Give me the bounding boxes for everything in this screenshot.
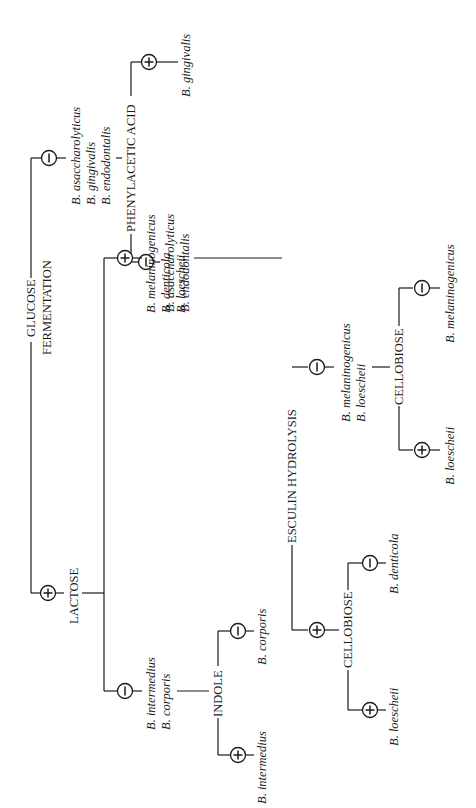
- esculin-positive-node: [310, 623, 325, 638]
- species-label: B. denticola: [159, 253, 173, 313]
- glucose-negative-node: [42, 151, 57, 166]
- species-label: B. loescheii: [387, 687, 401, 746]
- esculin-negative-node: [310, 360, 325, 375]
- lactose-positive-node: [118, 251, 133, 266]
- test-fermentation-label: FERMENTATION: [40, 260, 54, 355]
- lactose-negative-node: [118, 684, 133, 699]
- species-label: B. melaninogenicus: [144, 214, 158, 313]
- cellobiose-positive-node: [415, 443, 430, 458]
- phenylacetic-positive-node: [142, 55, 157, 70]
- indole-negative-node: [231, 624, 246, 639]
- species-label: B. intermedius: [255, 731, 269, 804]
- species-label: B. melaninogenicus: [339, 323, 353, 422]
- species-label: B. denticola: [387, 534, 401, 594]
- species-label: B. loescheii: [354, 363, 368, 422]
- indole-positive-node: [231, 748, 246, 763]
- species-label: B. corporis: [255, 609, 269, 665]
- dichotomous-key-diagram: GLUCOSE FERMENTATION B. asaccharolyticus…: [0, 0, 476, 808]
- test-indole-label: INDOLE: [211, 670, 225, 717]
- species-label: B. loescheii: [174, 254, 188, 313]
- species-label: B. loescheii: [443, 426, 457, 485]
- cellobiose-positive-node: [363, 703, 378, 718]
- species-label: B. endodontalis: [99, 126, 113, 205]
- test-lactose-label: LACTOSE: [67, 568, 81, 624]
- species-label: B. gingivalis: [84, 142, 98, 205]
- cellobiose-negative-node: [363, 556, 378, 571]
- species-label: B. corporis: [159, 674, 173, 730]
- test-glucose-label: GLUCOSE: [24, 279, 38, 337]
- species-label: B. melaninogenicus: [443, 244, 457, 343]
- species-label: B. gingivalis: [179, 34, 193, 97]
- species-label: B. asaccharolyticus: [69, 107, 83, 205]
- test-phenylacetic-acid-label: PHENYLACETIC ACID: [124, 105, 138, 232]
- test-cellobiose-label: CELLOBIOSE: [392, 328, 406, 405]
- test-cellobiose-label: CELLOBIOSE: [341, 591, 355, 668]
- cellobiose-negative-node: [415, 281, 430, 296]
- species-label: B. intermedius: [144, 657, 158, 730]
- glucose-negative-species-list: B. asaccharolyticus B. gingivalis B. end…: [69, 107, 113, 205]
- glucose-positive-node: [41, 586, 56, 601]
- test-esculin-hydrolysis-label: ESCULIN HYDROLYSIS: [285, 409, 299, 543]
